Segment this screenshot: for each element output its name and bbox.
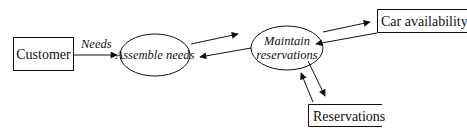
customer-entity: Customer	[14, 38, 74, 71]
car-availability-entity: Car availability	[378, 10, 467, 33]
assemble-needs-process: Assemble needs	[115, 34, 195, 76]
reservations-entity: Reservations	[309, 105, 386, 127]
maintain-to-assemble-arrow	[200, 48, 251, 57]
reservations-to-maintain-arrow	[301, 73, 313, 102]
maintain-label-line1: Maintain	[263, 34, 310, 48]
data-flow-diagram: Customer Needs Assemble needs Maintain r…	[0, 0, 467, 136]
reservations-label: Reservations	[313, 109, 385, 124]
maintain-to-car-arrow	[323, 22, 370, 32]
needs-flow: Needs	[74, 37, 118, 55]
maintain-reservations-process: Maintain reservations	[251, 26, 323, 70]
maintain-to-reservations-arrow	[308, 61, 325, 96]
car-availability-label: Car availability	[381, 14, 467, 29]
customer-label: Customer	[16, 47, 71, 62]
car-to-maintain-arrow	[316, 33, 377, 44]
assemble-needs-label: Assemble needs	[115, 48, 195, 62]
assemble-to-maintain-arrow	[191, 34, 238, 44]
needs-flow-label: Needs	[80, 37, 112, 51]
maintain-label-line2: reservations	[256, 48, 317, 62]
